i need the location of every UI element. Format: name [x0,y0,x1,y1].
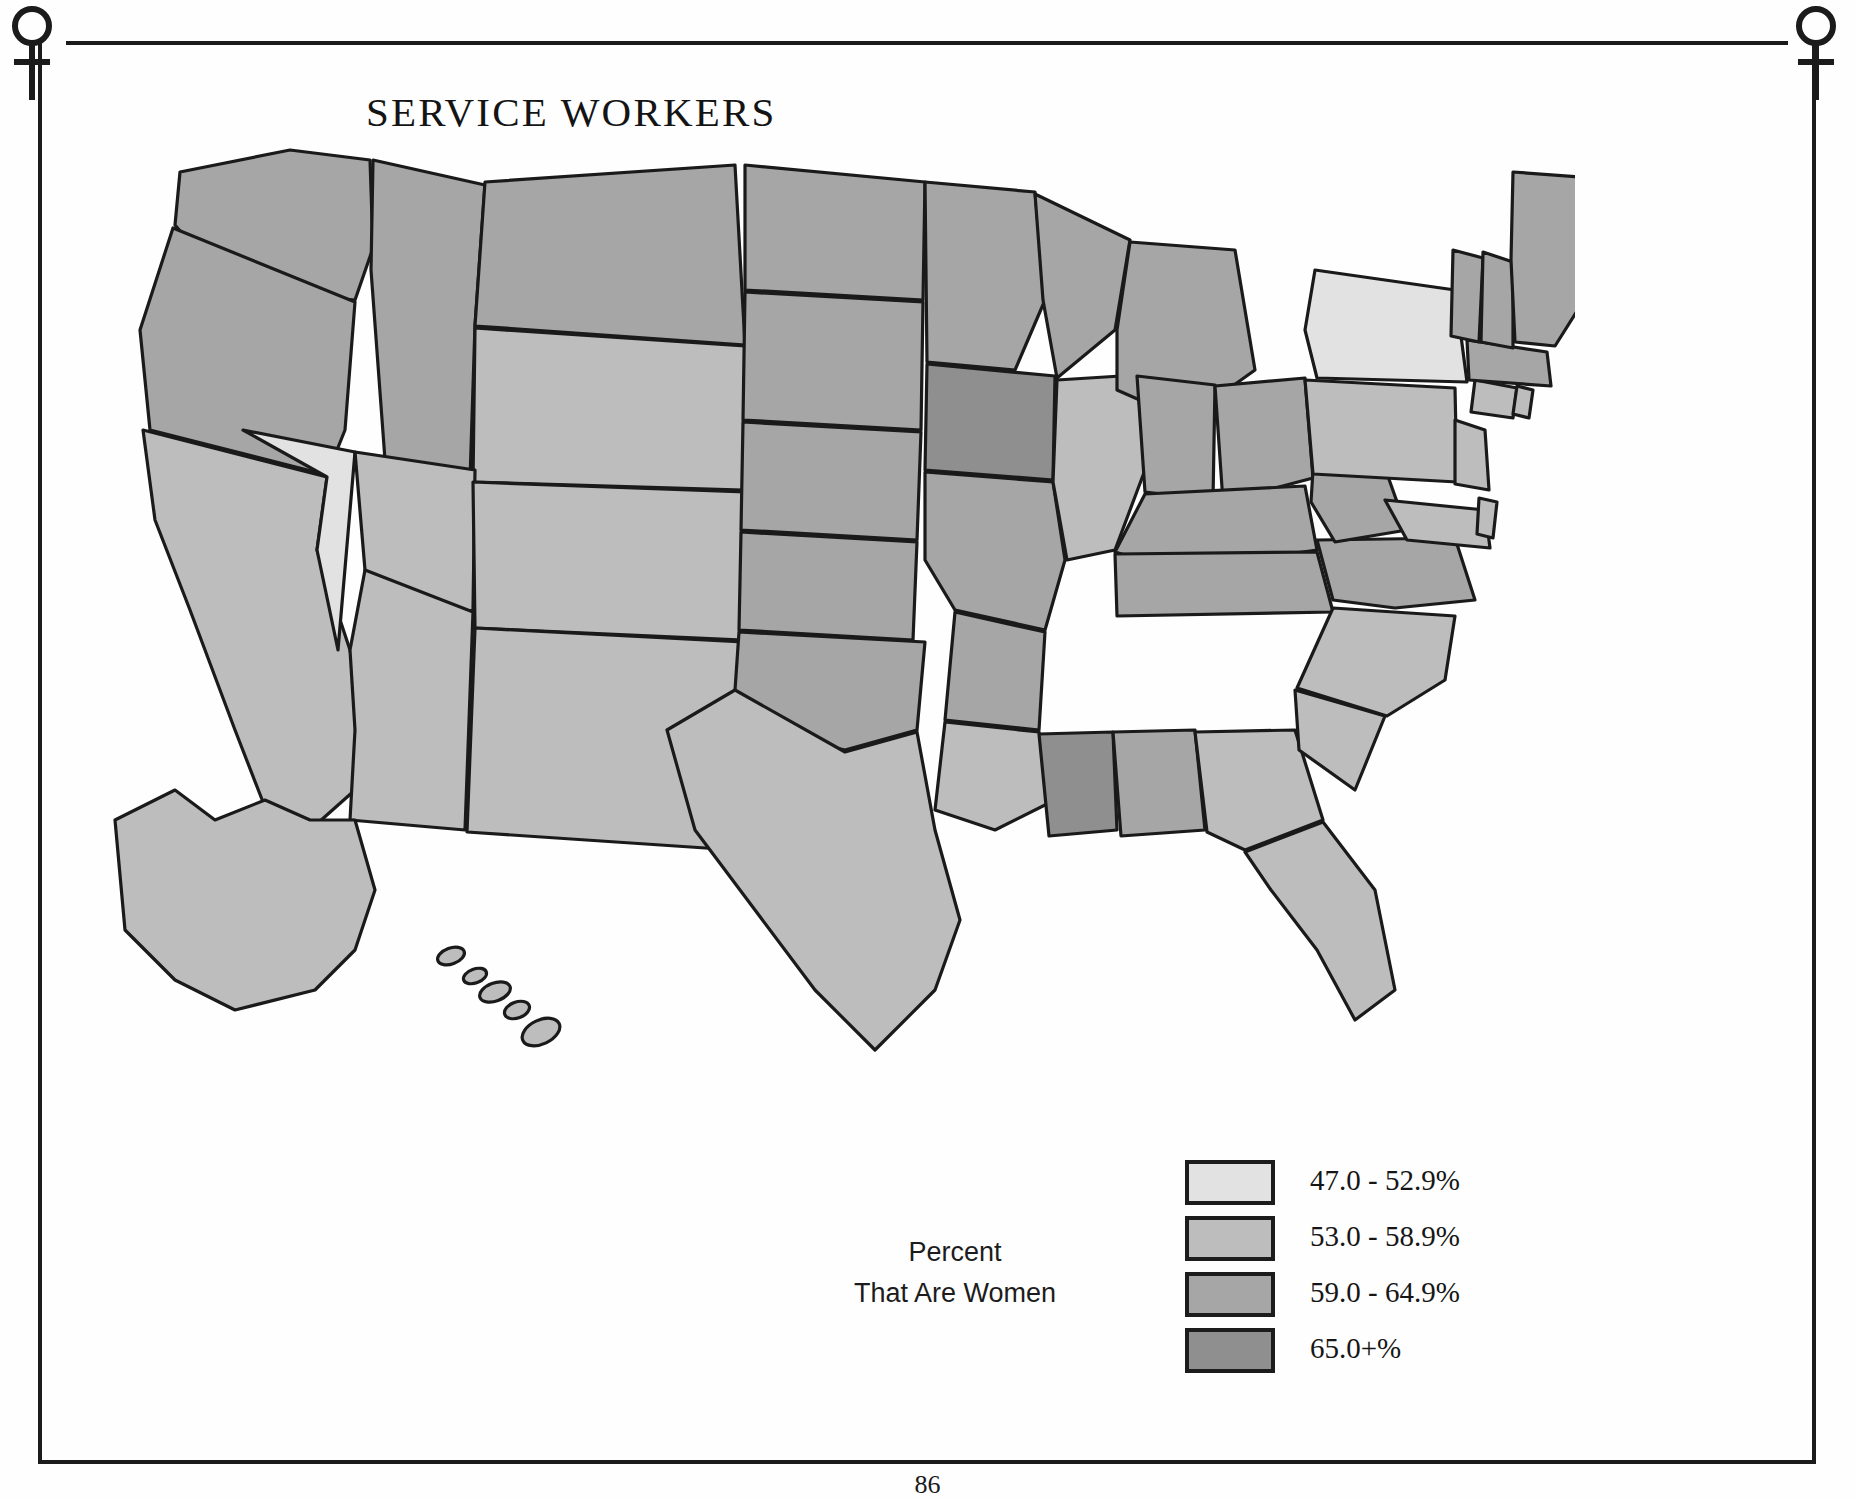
state-pennsylvania [1305,380,1457,482]
state-florida [1245,822,1395,1020]
state-maine [1511,172,1575,346]
frame-right-rule [1812,41,1816,1464]
frame-bottom-rule [38,1460,1816,1464]
state-arkansas [945,612,1045,730]
state-new-york [1305,270,1467,382]
state-wyoming [473,328,745,490]
state-rhode-island [1513,386,1533,418]
state-mississippi [1039,732,1117,836]
state-colorado [473,482,745,640]
state-minnesota [925,182,1045,370]
page-canvas: SERVICE WORKERS Percent That Are Women 4… [0,0,1855,1500]
state-hawaii-island-2 [461,965,488,986]
state-virginia [1317,538,1475,608]
state-idaho [371,160,485,480]
state-connecticut [1471,380,1517,418]
state-new-jersey [1455,420,1489,490]
legend-caption-line2: That Are Women [820,1273,1090,1314]
state-nebraska [741,422,921,540]
page-number: 86 [0,1470,1855,1500]
page-title: SERVICE WORKERS [366,88,777,136]
state-texas [667,690,960,1050]
state-north-dakota [745,165,925,300]
state-iowa [925,364,1055,480]
venus-symbol-icon-right [1786,0,1846,110]
us-choropleth-map [55,130,1575,1090]
state-kansas [739,532,917,640]
legend-label: 47.0 - 52.9% [1310,1164,1460,1197]
state-new-hampshire [1481,252,1513,348]
legend-label: 59.0 - 64.9% [1310,1276,1460,1309]
state-delaware [1477,498,1497,538]
map-legend: Percent That Are Women 47.0 - 52.9%53.0 … [820,1160,1380,1370]
state-vermont [1451,250,1483,342]
state-arizona [350,570,473,830]
legend-swatch [1185,1272,1275,1317]
frame-left-rule [38,41,42,1464]
state-alaska [115,790,375,1010]
state-hawaii-island-4 [502,998,532,1022]
state-hawaii-island-3 [477,978,513,1006]
legend-label: 53.0 - 58.9% [1310,1220,1460,1253]
state-hawaii-island-1 [435,944,467,969]
venus-symbol-icon [2,0,62,110]
state-hawaii-island-5 [518,1013,564,1052]
legend-swatch [1185,1328,1275,1373]
legend-label: 65.0+% [1310,1332,1401,1365]
state-louisiana [935,722,1055,830]
state-alabama [1113,730,1205,836]
frame-top-rule [66,41,1788,45]
state-montana [475,165,745,345]
state-tennessee [1115,552,1333,616]
legend-swatch [1185,1160,1275,1205]
state-south-dakota [743,292,923,430]
legend-caption-line1: Percent [820,1232,1090,1273]
state-indiana [1137,376,1215,500]
state-ohio [1215,378,1313,502]
legend-swatch [1185,1216,1275,1261]
state-missouri [925,472,1065,630]
legend-caption: Percent That Are Women [820,1232,1090,1314]
